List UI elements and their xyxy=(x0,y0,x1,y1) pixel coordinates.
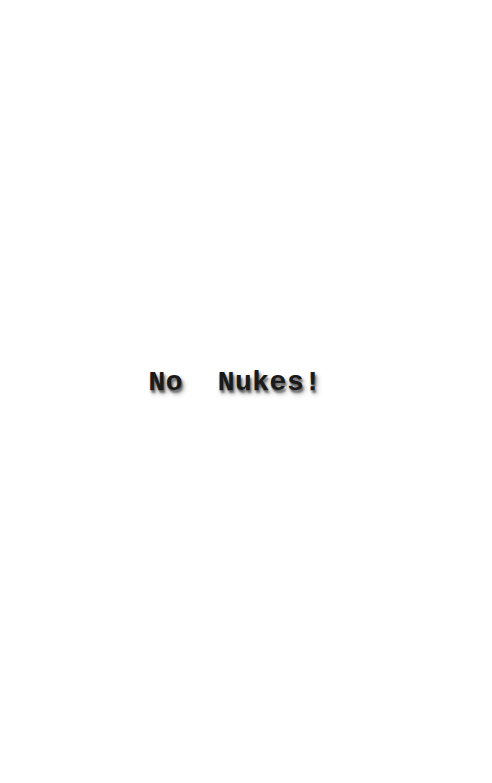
slogan-container: No Nukes! xyxy=(0,366,492,400)
slogan-text: No Nukes! xyxy=(148,366,321,400)
poster-canvas: No Nukes! xyxy=(0,0,492,783)
